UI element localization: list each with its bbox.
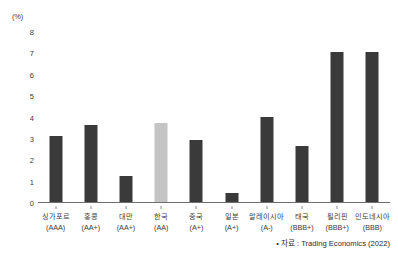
y-axis-tick-label: 1 [30, 177, 34, 186]
category-name: 중국 [179, 211, 214, 222]
x-axis-tick-mark [196, 206, 197, 209]
x-axis-category-label: 인도네시아(BBB) [355, 211, 390, 233]
category-name: 말레이시아 [249, 211, 284, 222]
bar [366, 52, 379, 202]
y-axis-tick-label: 5 [30, 92, 34, 101]
bar-slot [38, 31, 73, 202]
category-rating: (AA) [144, 222, 179, 233]
bar [119, 176, 132, 202]
x-axis-category-label: 필리핀(BBB+) [320, 211, 355, 233]
x-axis-category-label: 싱가포르(AAA) [38, 211, 73, 233]
x-axis-tick [179, 206, 214, 210]
category-rating: (A-) [249, 222, 284, 233]
x-axis-category-label: 중국(A+) [179, 211, 214, 233]
x-axis-tick [320, 206, 355, 210]
x-axis-tick [108, 206, 143, 210]
bar [260, 117, 273, 203]
plot-area [38, 32, 390, 203]
x-axis-category-label: 한국(AA) [144, 211, 179, 233]
x-axis-tick-mark [161, 206, 162, 209]
x-axis-tick-mark [55, 206, 56, 209]
category-rating: (A+) [214, 222, 249, 233]
bar-slot [108, 31, 143, 202]
bar-slot [179, 31, 214, 202]
bar [190, 140, 203, 202]
x-axis-category-label: 일본(A+) [214, 211, 249, 233]
x-axis-tick-mark [90, 206, 91, 209]
y-axis-tick-label: 8 [30, 28, 34, 37]
x-axis-tick-mark [266, 206, 267, 209]
x-axis-baseline [38, 202, 390, 203]
x-axis-tick [284, 206, 319, 210]
category-rating: (A+) [179, 222, 214, 233]
category-name: 대만 [108, 211, 143, 222]
y-axis-tick-label: 7 [30, 49, 34, 58]
x-axis-tick [144, 206, 179, 210]
x-axis-tick-mark [372, 206, 373, 209]
category-name: 태국 [284, 211, 319, 222]
bar-slot [144, 31, 179, 202]
bar-slot [320, 31, 355, 202]
bar-slot [249, 31, 284, 202]
y-axis-tick-label: 2 [30, 156, 34, 165]
bar [295, 146, 308, 202]
x-axis-tick [355, 206, 390, 210]
x-axis-tick-mark [125, 206, 126, 209]
x-axis-tick [214, 206, 249, 210]
chart-figure: (%) 012345678 싱가포르(AAA)홍콩(AA+)대만(AA+)한국(… [0, 0, 398, 256]
category-rating: (AA+) [108, 222, 143, 233]
x-axis-category-label: 말레이시아(A-) [249, 211, 284, 233]
category-name: 한국 [144, 211, 179, 222]
bar-slot [355, 31, 390, 202]
x-axis-category-label: 태국(BBB+) [284, 211, 319, 233]
category-name: 필리핀 [320, 211, 355, 222]
x-axis-tick-mark [231, 206, 232, 209]
y-axis-tick-label: 3 [30, 134, 34, 143]
bar [331, 52, 344, 202]
x-axis-tick-mark [337, 206, 338, 209]
bar-slot [214, 31, 249, 202]
y-axis-tick-label: 0 [30, 199, 34, 208]
category-rating: (BBB+) [284, 222, 319, 233]
x-axis-labels: 싱가포르(AAA)홍콩(AA+)대만(AA+)한국(AA)중국(A+)일본(A+… [38, 206, 390, 232]
category-name: 싱가포르 [38, 211, 73, 222]
x-axis-tick [38, 206, 73, 210]
bar [84, 125, 97, 202]
source-note: • 자료 : Trading Economics (2022) [276, 237, 390, 248]
x-axis-tick [249, 206, 284, 210]
y-axis-tick-label: 6 [30, 70, 34, 79]
x-axis-tick [73, 206, 108, 210]
y-axis-tick-label: 4 [30, 113, 34, 122]
bar-highlight [155, 123, 168, 202]
x-axis-tick-mark [301, 206, 302, 209]
category-name: 인도네시아 [355, 211, 390, 222]
x-axis-category-label: 대만(AA+) [108, 211, 143, 233]
category-rating: (AA+) [73, 222, 108, 233]
category-rating: (AAA) [38, 222, 73, 233]
bar-slot [284, 31, 319, 202]
category-name: 홍콩 [73, 211, 108, 222]
category-rating: (BBB+) [320, 222, 355, 233]
bar [225, 193, 238, 202]
category-name: 일본 [214, 211, 249, 222]
bar [49, 136, 62, 202]
bar-slot [73, 31, 108, 202]
category-rating: (BBB) [355, 222, 390, 233]
x-axis-category-label: 홍콩(AA+) [73, 211, 108, 233]
